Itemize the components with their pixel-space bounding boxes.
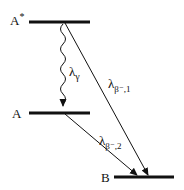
gamma-transition-wavy xyxy=(61,24,66,106)
level-a-star-label: A* xyxy=(10,12,24,27)
level-a-label: A xyxy=(12,107,21,120)
beta2-transition-label: λβ⁻,2 xyxy=(99,134,121,151)
beta1-transition-arrow xyxy=(65,23,148,175)
gamma-transition-label: λγ xyxy=(69,65,80,82)
level-b-label: B xyxy=(101,171,110,184)
beta1-transition-label: λβ⁻,1 xyxy=(108,77,130,94)
decay-diagram xyxy=(0,0,184,190)
